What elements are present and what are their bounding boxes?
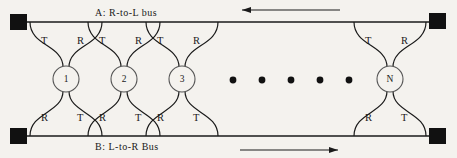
node-3-tap-top-right (185, 22, 218, 67)
node-N-tap-top-right (393, 22, 426, 67)
ellipsis-dot (317, 77, 324, 84)
node-1-tap-top-right (69, 22, 102, 67)
tap-label-node-2-top-left: T (99, 36, 106, 47)
arrow-right-icon (240, 147, 338, 153)
ellipsis-dot (346, 77, 353, 84)
terminator-top-left (10, 14, 27, 30)
tap-label-node-3-bottom-right: T (193, 113, 200, 124)
top-bus-label: A: R-to-L bus (95, 8, 157, 18)
tap-label-node-3-bottom-left: R (157, 113, 164, 124)
ellipsis-dot (259, 77, 266, 84)
node-N-tap-bottom-right (393, 91, 426, 136)
terminator-bottom-right (429, 128, 446, 144)
tap-label-node-1-top-left: T (41, 36, 48, 47)
tap-label-node-1-bottom-right: T (77, 113, 84, 124)
tap-label-node-2-bottom-left: R (99, 113, 106, 124)
diagram-canvas: A: R-to-L bus B: L-to-R Bus T R R T T R … (0, 0, 457, 158)
tap-label-node-3-top-left: T (157, 36, 164, 47)
node-label-2: 2 (114, 75, 134, 85)
terminator-bottom-left (10, 128, 27, 144)
tap-label-node-1-bottom-left: R (41, 113, 48, 124)
node-3-tap-bottom-right (185, 91, 218, 136)
tap-label-node-N-top-right: R (401, 36, 408, 47)
ellipsis-dot (288, 77, 295, 84)
tap-label-node-N-top-left: T (365, 36, 372, 47)
node-2-tap-top-right (127, 22, 160, 67)
continuation-dots (230, 77, 353, 84)
tap-label-node-1-top-right: R (77, 36, 84, 47)
node-label-N: N (380, 75, 400, 85)
tap-label-node-N-bottom-left: R (365, 113, 372, 124)
node-label-3: 3 (172, 75, 192, 85)
tap-label-node-2-bottom-right: T (135, 113, 142, 124)
tap-label-node-N-bottom-right: T (401, 113, 408, 124)
node-1-tap-bottom-right (69, 91, 102, 136)
tap-label-node-2-top-right: R (135, 36, 142, 47)
bottom-bus-label: B: L-to-R Bus (95, 142, 159, 152)
arrow-left-icon (242, 7, 340, 13)
tap-label-node-3-top-right: R (193, 36, 200, 47)
node-2-tap-bottom-right (127, 91, 160, 136)
node-label-1: 1 (56, 75, 76, 85)
ellipsis-dot (230, 77, 237, 84)
terminator-top-right (429, 13, 446, 29)
